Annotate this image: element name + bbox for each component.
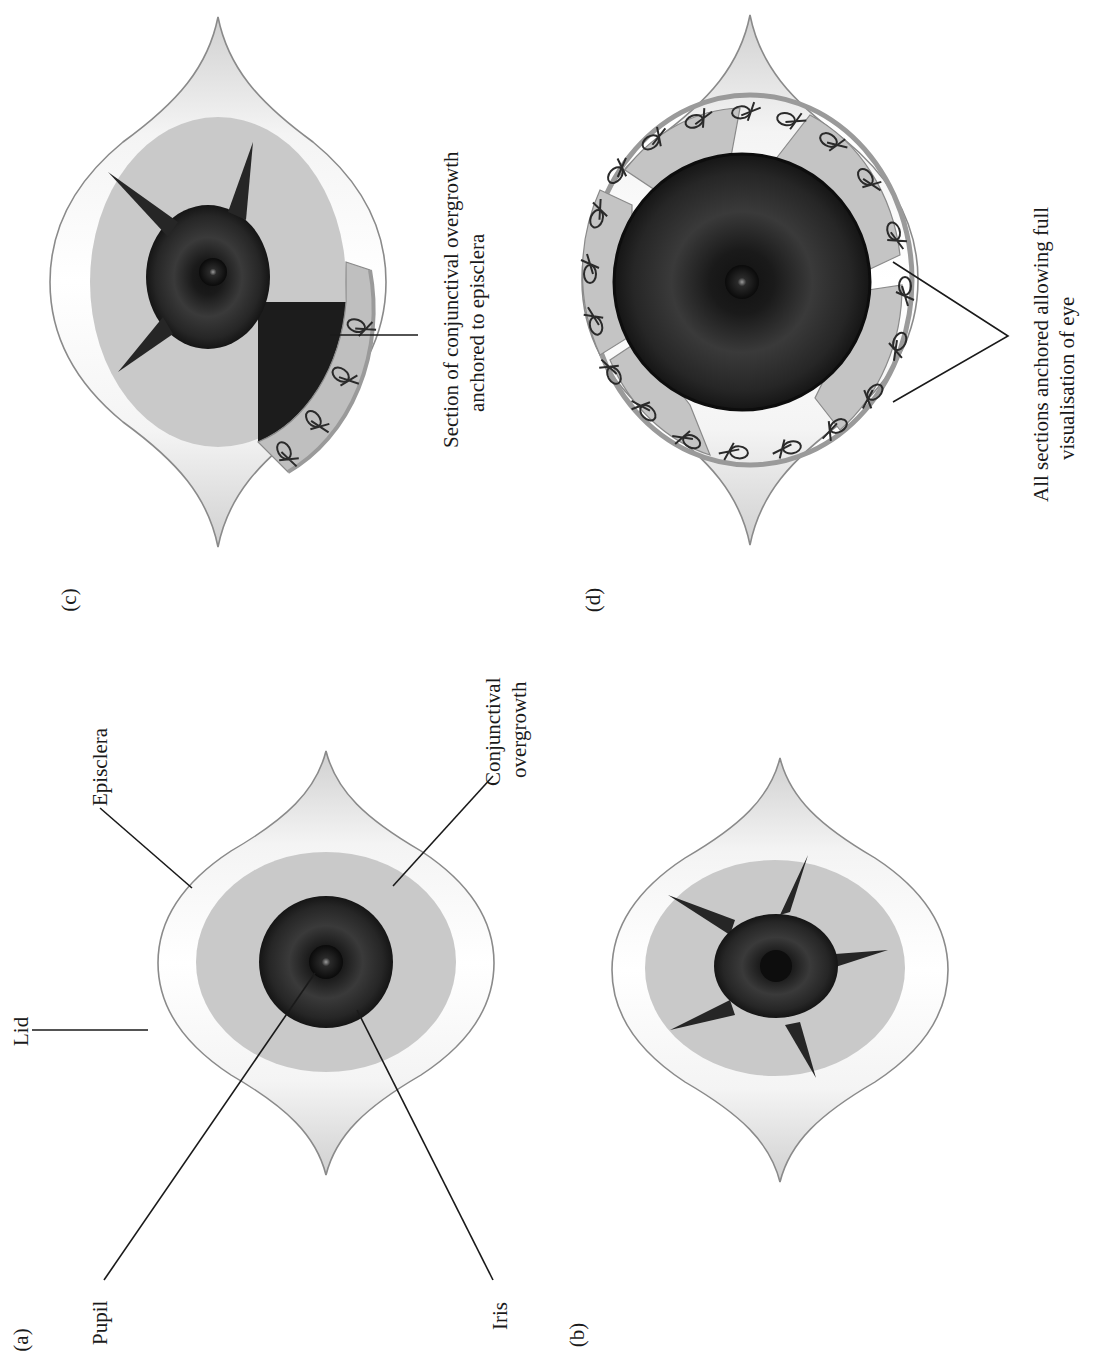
panel-b: (b): [565, 758, 948, 1347]
eye-surgery-figure: Section of conjunctival overgrowth ancho…: [0, 0, 1112, 1368]
pupil: [725, 265, 759, 299]
annotation-all-line1: All sections anchored allowing full: [1029, 207, 1053, 502]
annotation-pupil: Pupil: [88, 1300, 112, 1345]
panel-a: Lid Episclera Conjunctival overgrowth Pu…: [9, 677, 531, 1351]
leader-line-episclera: [100, 808, 192, 888]
annotation-conjunctival-line2: overgrowth: [507, 681, 531, 778]
panel-d: All sections anchored allowing full visu…: [581, 15, 1079, 612]
panel-label-c: (c): [57, 588, 81, 611]
pupil: [760, 950, 792, 982]
annotation-all-line2: visualisation of eye: [1055, 297, 1079, 460]
panel-label-d: (d): [581, 588, 605, 613]
panel-label-b: (b): [565, 1323, 589, 1348]
annotation-iris: Iris: [488, 1302, 512, 1330]
annotation-section-line2: anchored to episclera: [465, 233, 489, 412]
annotation-lid: Lid: [9, 1016, 33, 1046]
panel-c: Section of conjunctival overgrowth ancho…: [50, 17, 489, 612]
annotation-conjunctival-line1: Conjunctival: [481, 677, 505, 786]
panel-label-a: (a): [9, 1328, 33, 1351]
annotation-episclera: Episclera: [88, 727, 112, 806]
pupil: [199, 258, 227, 286]
annotation-section-line1: Section of conjunctival overgrowth: [439, 151, 463, 448]
